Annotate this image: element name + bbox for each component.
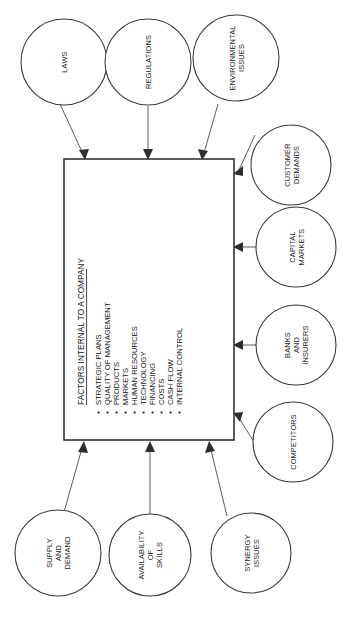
bullet-label: TECHNOLOGY (139, 351, 148, 405)
node-banks-and-insurers-label-line3: INSURERS (301, 325, 310, 364)
node-laws-label: LAWS (60, 51, 69, 72)
node-banks-and-insurers-label-line2: AND (292, 337, 301, 353)
node-supply-and-demand-label-line1: SUPPLY (45, 538, 54, 568)
node-environmental-issues-label-line2: ISSUES (237, 44, 246, 72)
arrowhead-synergy-issues (205, 441, 215, 453)
bullet-row: STRATEGIC PLANS (94, 334, 103, 413)
node-competitors[interactable]: COMPETITORS (253, 402, 333, 482)
bullet-label: STRATEGIC PLANS (94, 334, 103, 405)
node-supply-and-demand[interactable]: SUPPLY AND DEMAND (15, 510, 101, 596)
node-customer-demands-label-line1: CUSTOMER (283, 143, 292, 186)
node-laws-label-group: LAWS (60, 51, 69, 72)
node-banks-and-insurers-label-line1: BANKS (283, 332, 292, 358)
node-synergy-issues-label-group: SYNERGY ISSUES (243, 534, 261, 571)
node-customer-demands-label-group: CUSTOMER DEMANDS (283, 143, 301, 186)
bullet-row: TECHNOLOGY (139, 351, 148, 413)
connector-supply-and-demand (64, 448, 82, 512)
bullet-dot-icon (98, 411, 100, 413)
bullet-row: INTERNAL CONTROL (175, 328, 184, 414)
center-heading: FACTORS INTERNAL TO A COMPANY (77, 257, 86, 405)
node-banks-and-insurers[interactable]: BANKS AND INSURERS (256, 305, 336, 385)
node-capital-markets-label-line2: MARKETS (297, 229, 306, 266)
node-synergy-issues-label-line1: SYNERGY (243, 534, 252, 571)
node-customer-demands[interactable]: CUSTOMER DEMANDS (251, 125, 331, 205)
arrowhead-availability-of-skills (145, 441, 155, 452)
node-supply-and-demand-label-line2: AND (54, 545, 63, 561)
center-heading-group: FACTORS INTERNAL TO A COMPANY (77, 257, 87, 405)
connector-environmental-issues (204, 104, 218, 153)
node-availability-of-skills-label-line3: SKILLS (155, 542, 164, 568)
node-competitors-label-group: COMPETITORS (289, 414, 298, 470)
node-synergy-issues[interactable]: SYNERGY ISSUES (211, 513, 291, 593)
bullet-label: PRODUCTS (112, 362, 121, 405)
node-availability-of-skills[interactable]: AVAILABILITY OF SKILLS (109, 514, 191, 596)
bullet-label: INTERNAL CONTROL (175, 328, 184, 405)
node-availability-of-skills-label-line2: OF (146, 549, 155, 560)
connector-synergy-issues (211, 450, 227, 516)
bullet-dot-icon (161, 411, 163, 413)
node-competitors-label: COMPETITORS (289, 414, 298, 470)
node-availability-of-skills-label-line1: AVAILABILITY (137, 530, 146, 579)
center-box-group: FACTORS INTERNAL TO A COMPANY STRATEGIC … (64, 159, 234, 440)
bullet-row: FINANCING (148, 363, 157, 414)
bullet-label: HUMAN RESOURCES (130, 326, 139, 405)
arrowhead-supply-and-demand (78, 441, 88, 453)
connector-competitors (239, 418, 254, 442)
bullet-row: HUMAN RESOURCES (130, 326, 139, 413)
node-regulations[interactable]: REGULATIONS (105, 19, 191, 105)
connector-laws (60, 104, 83, 154)
node-capital-markets-label-group: CAPITAL MARKETS (288, 229, 306, 266)
bullet-row: QUALITY OF MANAGEMENT (103, 302, 112, 414)
node-supply-and-demand-label-line3: DEMAND (63, 537, 72, 570)
bullet-label: QUALITY OF MANAGEMENT (103, 302, 112, 405)
node-customer-demands-label-line2: DEMANDS (292, 146, 301, 184)
bullet-dot-icon (152, 411, 154, 413)
node-capital-markets-label-line1: CAPITAL (288, 231, 297, 262)
bullet-dot-icon (134, 411, 136, 413)
node-environmental-issues-label-line1: ENVIRONMENTAL (228, 25, 237, 90)
bullet-label: MARKETS (121, 368, 130, 405)
node-regulations-label-group: REGULATIONS (144, 35, 153, 89)
bullet-dot-icon (107, 411, 109, 413)
factors-diagram: FACTORS INTERNAL TO A COMPANY STRATEGIC … (0, 0, 346, 624)
node-environmental-issues[interactable]: ENVIRONMENTAL ISSUES (193, 15, 279, 101)
node-synergy-issues-label-line2: ISSUES (252, 539, 261, 567)
bullet-dot-icon (170, 411, 172, 413)
node-regulations-label: REGULATIONS (144, 35, 153, 89)
bullet-row: PRODUCTS (112, 362, 121, 414)
bullet-label: FINANCING (148, 363, 157, 405)
node-capital-markets[interactable]: CAPITAL MARKETS (256, 207, 336, 287)
bullet-dot-icon (125, 411, 127, 413)
bullet-label: CASH FLOW (166, 359, 175, 405)
bullet-dot-icon (116, 411, 118, 413)
bullet-label: COSTS (157, 379, 166, 405)
bullet-dot-icon (179, 411, 181, 413)
diagram-canvas: FACTORS INTERNAL TO A COMPANY STRATEGIC … (0, 0, 346, 624)
bullet-dot-icon (143, 411, 145, 413)
node-laws[interactable]: LAWS (21, 19, 107, 105)
bullet-row: CASH FLOW (166, 359, 175, 414)
